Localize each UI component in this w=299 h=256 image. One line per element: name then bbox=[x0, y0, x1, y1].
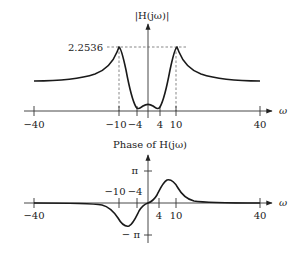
phase-omega-label: ω bbox=[279, 197, 287, 208]
svg-text:−4: −4 bbox=[128, 186, 143, 197]
magnitude-tick-labels: −40 −10 −4 4 10 40 bbox=[23, 119, 266, 130]
phase-plot: Phase of H(jω) ω π − π −10 −4 −40 4 10 4… bbox=[23, 139, 287, 243]
peak-value-label: 2.2536 bbox=[68, 42, 103, 53]
svg-text:4: 4 bbox=[156, 210, 162, 221]
svg-text:−40: −40 bbox=[23, 119, 44, 130]
svg-text:40: 40 bbox=[254, 119, 267, 130]
magnitude-omega-label: ω bbox=[279, 105, 287, 116]
phase-curve bbox=[34, 180, 260, 226]
phase-title: Phase of H(jω) bbox=[113, 139, 187, 150]
magnitude-curve bbox=[34, 47, 260, 109]
svg-text:40: 40 bbox=[254, 210, 267, 221]
magnitude-plot: |H(jω)| ω 2.2536 −40 −10 −4 4 10 40 bbox=[23, 10, 287, 130]
svg-text:−10: −10 bbox=[104, 186, 125, 197]
svg-text:−4: −4 bbox=[128, 119, 143, 130]
svg-text:4: 4 bbox=[157, 119, 163, 130]
chart-figure: |H(jω)| ω 2.2536 −40 −10 −4 4 10 40 bbox=[0, 0, 299, 256]
svg-text:−40: −40 bbox=[23, 210, 44, 221]
magnitude-title: |H(jω)| bbox=[135, 10, 170, 22]
svg-text:10: 10 bbox=[170, 119, 183, 130]
svg-text:−10: −10 bbox=[105, 119, 126, 130]
svg-text:10: 10 bbox=[170, 210, 183, 221]
neg-pi-label: − π bbox=[122, 229, 141, 240]
pi-label: π bbox=[131, 165, 138, 176]
